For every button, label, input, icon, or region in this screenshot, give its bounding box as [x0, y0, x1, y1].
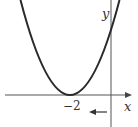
- left-arrow-icon: [89, 109, 96, 115]
- graph: y x −2: [0, 0, 138, 127]
- x-axis-label: x: [124, 99, 132, 114]
- vertex-tick-label: −2: [63, 99, 81, 113]
- x-axis-arrowhead-icon: [125, 92, 132, 98]
- y-axis-label: y: [101, 6, 110, 21]
